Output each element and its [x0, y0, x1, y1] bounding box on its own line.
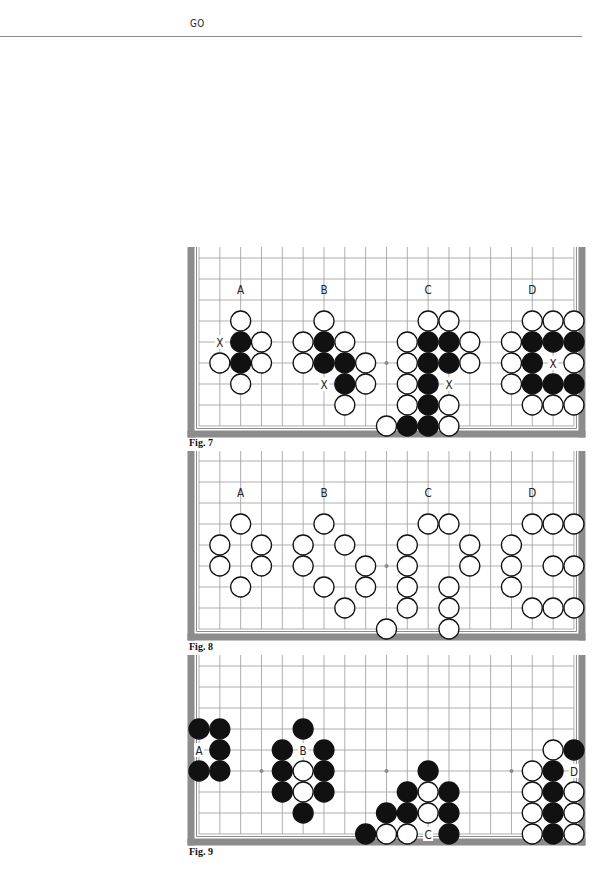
black-stone: [314, 761, 334, 781]
black-stone: [397, 782, 417, 802]
white-stone: [293, 782, 313, 802]
white-stone: [522, 803, 542, 823]
black-stone: [210, 740, 230, 760]
black-stone: [293, 719, 313, 739]
black-stone: [356, 824, 376, 844]
black-stone: [314, 740, 334, 760]
black-stone: [272, 761, 292, 781]
black-stone: [543, 782, 563, 802]
black-stone: [272, 740, 292, 760]
black-stone: [376, 803, 396, 823]
white-stone: [543, 740, 563, 760]
black-stone: [543, 824, 563, 844]
black-stone: [543, 761, 563, 781]
white-stone: [564, 824, 584, 844]
white-stone: [418, 803, 438, 823]
black-stone: [210, 761, 230, 781]
position-label-c: C: [424, 827, 431, 842]
black-stone: [439, 782, 459, 802]
white-stone: [418, 782, 438, 802]
white-stone: [564, 803, 584, 823]
star-point: [259, 769, 263, 773]
black-stone: [272, 782, 292, 802]
black-stone: [564, 740, 584, 760]
black-stone: [418, 761, 438, 781]
board-frame-left: [188, 655, 195, 846]
go-diagram-fig9: ABCD: [0, 0, 607, 894]
white-stone: [376, 824, 396, 844]
white-stone: [564, 782, 584, 802]
black-stone: [439, 803, 459, 823]
star-point: [384, 769, 388, 773]
white-stone: [522, 782, 542, 802]
black-stone: [397, 803, 417, 823]
position-label-b: B: [300, 743, 307, 758]
star-point: [509, 769, 513, 773]
black-stone: [543, 803, 563, 823]
white-stone: [522, 824, 542, 844]
white-stone: [293, 761, 313, 781]
black-stone: [189, 761, 209, 781]
black-stone: [210, 719, 230, 739]
white-stone: [397, 824, 417, 844]
black-stone: [189, 719, 209, 739]
black-stone: [439, 824, 459, 844]
black-stone: [293, 803, 313, 823]
position-label-a: A: [195, 743, 202, 758]
go-board: ABCD: [0, 0, 607, 894]
white-stone: [522, 761, 542, 781]
black-stone: [314, 782, 334, 802]
figure-caption: Fig. 9: [189, 846, 213, 857]
position-label-d: D: [570, 764, 578, 779]
